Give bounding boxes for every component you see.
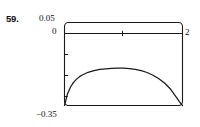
y-axis-ticks <box>65 55 69 97</box>
figure-container: 59. 0.05 0 −0.35 2 <box>0 0 200 127</box>
plot-frame <box>65 23 183 106</box>
plot-area <box>0 0 200 127</box>
data-curve <box>65 68 183 105</box>
